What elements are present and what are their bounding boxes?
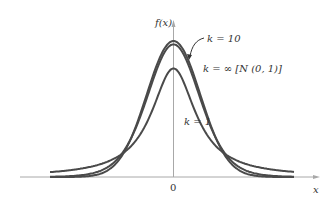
t-distribution-chart: f(x) 0 x k = 10 k = ∞ [N (0, 1)] k = 1: [0, 0, 336, 201]
x-axis-label: x: [313, 184, 319, 195]
curve-1: [50, 69, 294, 173]
k10-label: k = 10: [207, 33, 241, 44]
x-axis-arrow-icon: [313, 175, 320, 179]
annotation-arrow: [190, 38, 204, 56]
kinf-label: k = ∞ [N (0, 1)]: [203, 63, 282, 74]
origin-label: 0: [170, 182, 176, 193]
k1-label: k = 1: [184, 116, 211, 127]
y-axis-label: f(x): [154, 17, 172, 28]
curve-inf: [50, 41, 294, 177]
chart-container: f(x) 0 x k = 10 k = ∞ [N (0, 1)] k = 1: [0, 0, 336, 201]
curves-group: [50, 41, 294, 177]
